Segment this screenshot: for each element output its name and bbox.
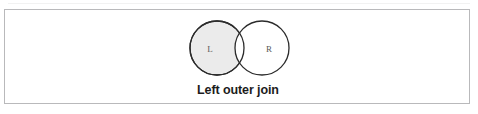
figure-frame: L R Left outer join — [4, 9, 470, 104]
venn-left-label: L — [207, 44, 213, 54]
figure-caption: Left outer join — [5, 83, 471, 98]
venn-right-label: R — [266, 44, 272, 54]
venn-right-circle — [235, 21, 289, 75]
scan-artifact-line — [8, 3, 470, 4]
